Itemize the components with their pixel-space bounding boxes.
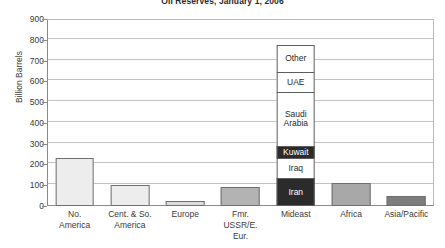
- bar[interactable]: [166, 201, 205, 206]
- bars-layer: IranIraqKuwaitSaudi ArabiaUAEOther: [47, 19, 434, 206]
- stack-segment-label: Kuwait: [282, 148, 310, 157]
- stack-segment-label: Iraq: [287, 164, 304, 173]
- stack-segment[interactable]: Iraq: [276, 158, 315, 179]
- stack-segment[interactable]: Kuwait: [276, 146, 315, 160]
- y-tick-label: 700: [4, 56, 44, 66]
- stack-segment-label: Iran: [287, 188, 304, 197]
- y-tick-label: 200: [4, 159, 44, 169]
- x-axis-category-labels: No. AmericaCent. & So. AmericaEuropeFmr.…: [47, 209, 434, 248]
- x-tick-label: Africa: [323, 209, 378, 220]
- bar[interactable]: [387, 196, 426, 206]
- x-tick-label: Cent. & So. America: [102, 209, 157, 231]
- bar[interactable]: [221, 187, 260, 206]
- stack-segment[interactable]: Saudi Arabia: [276, 92, 315, 147]
- y-tick-label: 900: [4, 14, 44, 24]
- stack-segment-label: Saudi Arabia: [282, 110, 309, 128]
- x-tick-label: No. America: [47, 209, 102, 231]
- bar-slot: [323, 19, 378, 206]
- x-tick-label: Fmr. USSR/E. Eur.: [213, 209, 268, 242]
- y-tick-label: 600: [4, 76, 44, 86]
- bar-slot: [47, 19, 102, 206]
- bar-slot: [102, 19, 157, 206]
- chart-title: Oil Reserves, January 1, 2006: [0, 0, 445, 6]
- bar-slot: [379, 19, 434, 206]
- x-tick-label: Mideast: [268, 209, 323, 220]
- bar[interactable]: [55, 158, 94, 206]
- y-tick-mark: [42, 206, 47, 207]
- bar-slot: IranIraqKuwaitSaudi ArabiaUAEOther: [268, 19, 323, 206]
- stacked-bar-mideast[interactable]: IranIraqKuwaitSaudi ArabiaUAEOther: [276, 40, 315, 206]
- y-tick-label: 100: [4, 180, 44, 190]
- y-tick-label: 800: [4, 35, 44, 45]
- y-tick-label: 0: [4, 201, 44, 211]
- stack-segment[interactable]: Other: [276, 45, 315, 73]
- stack-segment[interactable]: UAE: [276, 72, 315, 93]
- bar-slot: [158, 19, 213, 206]
- bar-slot: [213, 19, 268, 206]
- stack-segment-label: UAE: [286, 78, 305, 87]
- x-tick-label: Asia/Pacific: [379, 209, 434, 220]
- oil-reserves-bar-chart: Oil Reserves, January 1, 2006 Billion Ba…: [0, 0, 445, 248]
- y-tick-label: 300: [4, 139, 44, 149]
- bar[interactable]: [111, 185, 150, 206]
- y-tick-label: 400: [4, 118, 44, 128]
- stack-segment[interactable]: Iran: [276, 178, 315, 206]
- y-tick-label: 500: [4, 97, 44, 107]
- bar[interactable]: [332, 183, 371, 206]
- stack-segment-label: Other: [284, 54, 307, 63]
- x-tick-label: Europe: [158, 209, 213, 220]
